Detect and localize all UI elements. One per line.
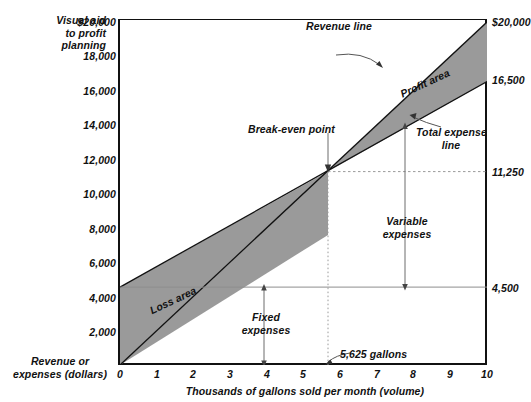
x-tick-3: 3 xyxy=(220,368,240,380)
revenue-line-label: Revenue line xyxy=(306,20,372,32)
x-tick-10: 10 xyxy=(477,368,497,380)
x-axis-label: Thousands of gallons sold per month (vol… xyxy=(140,385,470,397)
y-tick-6000: 6,000 xyxy=(64,257,116,269)
total-expense-line-label: Total expense line xyxy=(416,126,486,151)
x-tick-7: 7 xyxy=(367,368,387,380)
x-tick-9: 9 xyxy=(440,368,460,380)
variable-expenses-label: Variable expenses xyxy=(375,215,439,240)
right-label-4500: 4,500 xyxy=(492,282,519,294)
variable-expenses-arrow xyxy=(402,123,408,291)
y-tick-4000: 4,000 xyxy=(64,292,116,304)
gallons-callout-label: 5,625 gallons xyxy=(340,348,407,360)
x-tick-4: 4 xyxy=(257,368,277,380)
x-tick-8: 8 xyxy=(403,368,423,380)
y-tick-8000: 8,000 xyxy=(64,223,116,235)
x-tick-2: 2 xyxy=(183,368,203,380)
fixed-expenses-label: Fixed expenses xyxy=(234,311,298,336)
breakeven-leader xyxy=(325,133,331,173)
x-tick-5: 5 xyxy=(293,368,313,380)
plot-area xyxy=(118,19,487,365)
x-tick-6: 6 xyxy=(330,368,350,380)
total-expense-line xyxy=(120,82,487,288)
y-tick-18000: 18,000 xyxy=(64,50,116,62)
revenue-line-leader xyxy=(336,54,383,68)
y-tick-16000: 16,000 xyxy=(64,85,116,97)
y-tick-10000: 10,000 xyxy=(64,188,116,200)
right-label-11250: 11,250 xyxy=(492,166,524,178)
x-tick-0: 0 xyxy=(110,368,130,380)
y-axis-label: Revenue or expenses (dollars) xyxy=(6,355,114,380)
right-label-16500: 16,500 xyxy=(492,74,525,86)
break-even-point-label: Break-even point xyxy=(248,123,335,135)
y-tick-14000: 14,000 xyxy=(64,119,116,131)
y-tick-20000: $20,000 xyxy=(64,16,116,28)
x-tick-1: 1 xyxy=(147,368,167,380)
y-tick-2000: 2,000 xyxy=(64,326,116,338)
right-label-20000: $20,000 xyxy=(492,16,531,28)
y-tick-12000: 12,000 xyxy=(64,154,116,166)
